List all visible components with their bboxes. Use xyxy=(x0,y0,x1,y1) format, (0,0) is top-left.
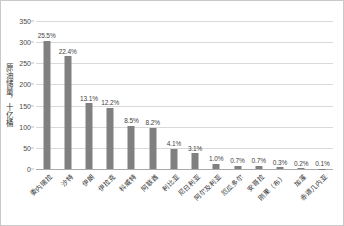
bar-slot: 0.7% xyxy=(248,21,269,169)
bar[interactable] xyxy=(86,103,93,169)
x-axis-label-slot: 伊拉克 xyxy=(100,170,121,226)
y-axis-tick-mark xyxy=(31,169,34,170)
y-axis-tick-label: 50 xyxy=(23,144,31,151)
bar-slot: 0.7% xyxy=(227,21,248,169)
bar[interactable] xyxy=(43,41,50,169)
bar[interactable] xyxy=(276,167,283,169)
x-axis-label-slot: 赤道几内亚 xyxy=(312,170,333,226)
x-axis-category-label: 科威特 xyxy=(117,171,139,193)
bar-data-label: 0.1% xyxy=(315,160,329,167)
x-axis-category-label: 沙特 xyxy=(58,171,75,188)
y-axis-tick-mark xyxy=(31,42,34,43)
y-axis-tick-label: 250 xyxy=(19,60,31,67)
y-axis-tick-label: 150 xyxy=(19,102,31,109)
bar-slot: 3.1% xyxy=(185,21,206,169)
bar[interactable] xyxy=(213,164,220,169)
bar[interactable] xyxy=(128,126,135,169)
bar-data-label: 8.2% xyxy=(145,119,159,126)
bar-slot: 12.2% xyxy=(100,21,121,169)
x-axis-label-slot: 伊朗 xyxy=(78,170,99,226)
y-axis-tick-label: 100 xyxy=(19,123,31,130)
x-axis-label-slot: 厄瓜多尔 xyxy=(227,170,248,226)
bar-slot: 13.1% xyxy=(78,21,99,169)
bar-data-label: 25.5% xyxy=(38,32,56,39)
bar[interactable] xyxy=(255,166,262,169)
bar[interactable] xyxy=(192,153,199,169)
x-axis-label-slot: 利比亚 xyxy=(163,170,184,226)
x-axis-label-slot: 沙特 xyxy=(57,170,78,226)
x-axis-category-labels: 委内瑞拉沙特伊朗伊拉克科威特阿联酋利比亚尼日利亚阿尔及利亚厄瓜多尔安哥拉刚果（布… xyxy=(36,170,333,226)
bar-slot: 8.5% xyxy=(121,21,142,169)
y-axis-tick-label: 200 xyxy=(19,81,31,88)
bar-data-label: 4.1% xyxy=(167,140,181,147)
x-axis-label-slot: 科威特 xyxy=(121,170,142,226)
bar-data-label: 12.2% xyxy=(101,99,119,106)
bar[interactable] xyxy=(234,166,241,169)
bar-series: 25.5%22.4%13.1%12.2%8.5%8.2%4.1%3.1%1.0%… xyxy=(36,21,333,169)
bar-slot: 25.5% xyxy=(36,21,57,169)
y-axis-tick-mark xyxy=(31,105,34,106)
bar-slot: 1.0% xyxy=(206,21,227,169)
bar-data-label: 3.1% xyxy=(188,145,202,152)
bar-slot: 8.2% xyxy=(142,21,163,169)
y-axis-tick-label: 350 xyxy=(19,18,31,25)
chart-container: 原油储量，十亿桶 050100150200250300350 25.5%22.4… xyxy=(0,0,344,226)
bar[interactable] xyxy=(149,128,156,169)
x-axis-category-label: 伊拉克 xyxy=(95,171,117,193)
x-axis-category-label: 委内瑞拉 xyxy=(27,171,54,198)
bar-data-label: 8.5% xyxy=(124,117,138,124)
plot-area: 25.5%22.4%13.1%12.2%8.5%8.2%4.1%3.1%1.0%… xyxy=(36,21,333,169)
y-axis-tick-label: 300 xyxy=(19,39,31,46)
bar-slot: 4.1% xyxy=(163,21,184,169)
y-axis-tick-labels: 050100150200250300350 xyxy=(1,21,34,171)
bar-data-label: 0.7% xyxy=(230,157,244,164)
y-axis-tick-mark xyxy=(31,63,34,64)
y-axis-tick-mark xyxy=(31,126,34,127)
y-axis-tick-mark xyxy=(31,21,34,22)
bar-data-label: 0.3% xyxy=(273,159,287,166)
bar-slot: 0.3% xyxy=(269,21,290,169)
y-axis-tick-mark xyxy=(31,147,34,148)
bar-slot: 0.1% xyxy=(312,21,333,169)
x-axis-label-slot: 阿联酋 xyxy=(142,170,163,226)
x-axis-category-label: 伊朗 xyxy=(79,171,96,188)
bar[interactable] xyxy=(64,56,71,169)
bar[interactable] xyxy=(170,149,177,169)
bar-data-label: 1.0% xyxy=(209,155,223,162)
bar-slot: 22.4% xyxy=(57,21,78,169)
x-axis-label-slot: 刚果（布） xyxy=(269,170,290,226)
x-axis-label-slot: 阿尔及利亚 xyxy=(206,170,227,226)
y-axis-tick-mark xyxy=(31,84,34,85)
bar[interactable] xyxy=(107,108,114,169)
bar-data-label: 13.1% xyxy=(80,95,98,102)
bar-data-label: 0.2% xyxy=(294,160,308,167)
x-axis-category-label: 阿联酋 xyxy=(138,171,160,193)
bar[interactable] xyxy=(298,168,305,169)
bar-data-label: 0.7% xyxy=(252,157,266,164)
x-axis-label-slot: 委内瑞拉 xyxy=(36,170,57,226)
bar-slot: 0.2% xyxy=(291,21,312,169)
bar-data-label: 22.4% xyxy=(59,48,77,55)
